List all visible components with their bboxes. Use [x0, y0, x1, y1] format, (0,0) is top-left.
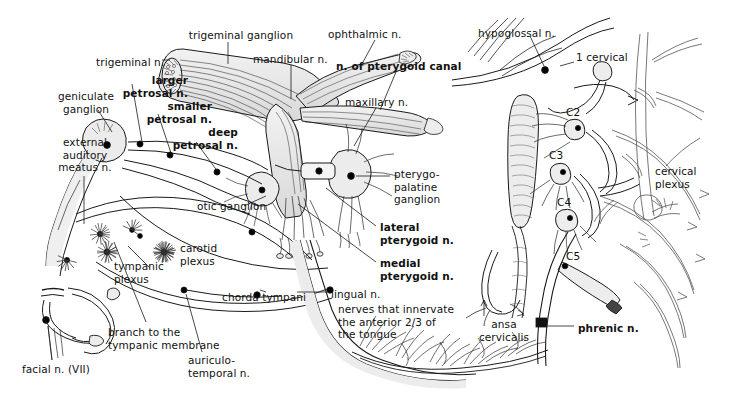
label-first-cervical: 1 cervical: [576, 51, 636, 64]
label-hypoglossal-n: hypoglossal n.: [478, 27, 566, 40]
label-branch-to-tympanic-membrane: branch to the tympanic membrane: [108, 326, 218, 351]
label-ansa-cervicalis: ansa cervicalis: [473, 318, 535, 343]
label-chorda-tympani: chorda tympani: [222, 291, 314, 304]
anatomical-figure: trigeminal gangliontrigeminal n.mandibul…: [0, 0, 739, 405]
label-facial-n-vii: facial n. (VII): [22, 363, 100, 376]
label-lingual-n: lingual n.: [331, 288, 391, 301]
label-tongue-innervation: nerves that innervate the anterior 2/3 o…: [338, 303, 468, 341]
label-maxillary-n: maxillary n.: [345, 96, 419, 109]
label-c5: C5: [566, 250, 586, 263]
label-c3: C3: [549, 149, 569, 162]
label-lateral-pterygoid-n: lateral pterygoid n.: [380, 221, 460, 246]
label-trigeminal-n: trigeminal n.: [96, 56, 170, 69]
label-geniculate-ganglion: geniculate ganglion: [50, 90, 122, 115]
label-ophthalmic-n: ophthalmic n.: [328, 28, 408, 41]
label-pterygopalatine-ganglion: pterygo- palatine ganglion: [394, 168, 456, 206]
label-cervical-plexus: cervical plexus: [655, 165, 711, 190]
label-mandibular-n: mandibular n.: [253, 53, 335, 66]
label-n-of-pterygoid-canal: n. of pterygoid canal: [336, 60, 464, 73]
label-c2: C2: [566, 106, 586, 119]
label-trigeminal-ganglion: trigeminal ganglion: [186, 29, 296, 42]
label-deep-petrosal-n: deep petrosal n.: [160, 126, 238, 151]
label-phrenic-n: phrenic n.: [578, 322, 642, 335]
label-auriculotemporal-n: auriculo- temporal n.: [188, 354, 256, 379]
label-carotid-plexus: carotid plexus: [180, 242, 230, 267]
label-smaller-petrosal-n: smaller petrosal n.: [134, 100, 212, 125]
label-medial-pterygoid-n: medial pterygoid n.: [380, 257, 460, 282]
label-external-auditory-meatus-n: external auditory meatus n.: [52, 136, 118, 174]
label-otic-ganglion: otic ganglion: [197, 200, 277, 213]
label-c4: C4: [557, 196, 577, 209]
label-tympanic-plexus: tympanic plexus: [114, 260, 170, 285]
